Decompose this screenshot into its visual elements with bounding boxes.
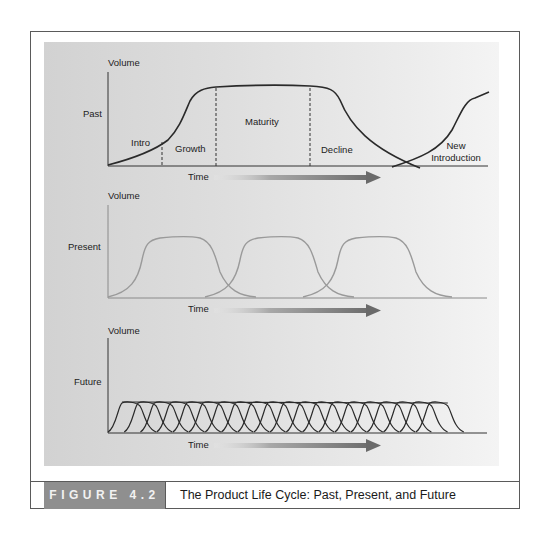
- stage-decline-label: Decline: [321, 144, 353, 155]
- present-y-axis-label: Volume: [108, 190, 140, 201]
- stage-new-label: New: [446, 140, 465, 151]
- present-cycle-1: [108, 237, 256, 298]
- future-x-axis-label: Time: [188, 439, 209, 450]
- time-arrow-icon: [366, 304, 381, 317]
- stage-introduction-label: Introduction: [431, 152, 481, 163]
- time-arrow-icon: [366, 171, 381, 184]
- figure-number-label: FIGURE 4.2: [44, 482, 166, 509]
- future-row-label: Future: [74, 376, 101, 387]
- future-cycles: [108, 402, 464, 432]
- present-x-axis-label: Time: [188, 303, 209, 314]
- product-life-cycle-diagram: Volume Past Intro Growth Maturity Declin…: [0, 0, 554, 538]
- stage-maturity-label: Maturity: [245, 116, 279, 127]
- present-row-label: Present: [68, 241, 101, 252]
- past-row-label: Past: [83, 108, 102, 119]
- past-chart: Volume Past Intro Growth Maturity Declin…: [83, 57, 489, 184]
- future-cycle-curve: [416, 402, 464, 432]
- past-x-axis-label: Time: [188, 171, 209, 182]
- present-cycle-3: [303, 237, 452, 298]
- figure-caption: FIGURE 4.2 The Product Life Cycle: Past,…: [30, 481, 520, 509]
- figure-title: The Product Life Cycle: Past, Present, a…: [180, 482, 456, 509]
- stage-growth-label: Growth: [175, 143, 206, 154]
- stage-intro-label: Intro: [131, 137, 150, 148]
- present-chart: Volume Present Time: [68, 190, 487, 317]
- future-y-axis-label: Volume: [108, 325, 140, 336]
- present-cycle-2: [205, 237, 354, 298]
- future-cycle-curve: [400, 402, 448, 432]
- time-arrow-icon: [366, 439, 381, 452]
- future-chart: Volume Future Time: [74, 325, 487, 452]
- past-y-axis-label: Volume: [108, 57, 140, 68]
